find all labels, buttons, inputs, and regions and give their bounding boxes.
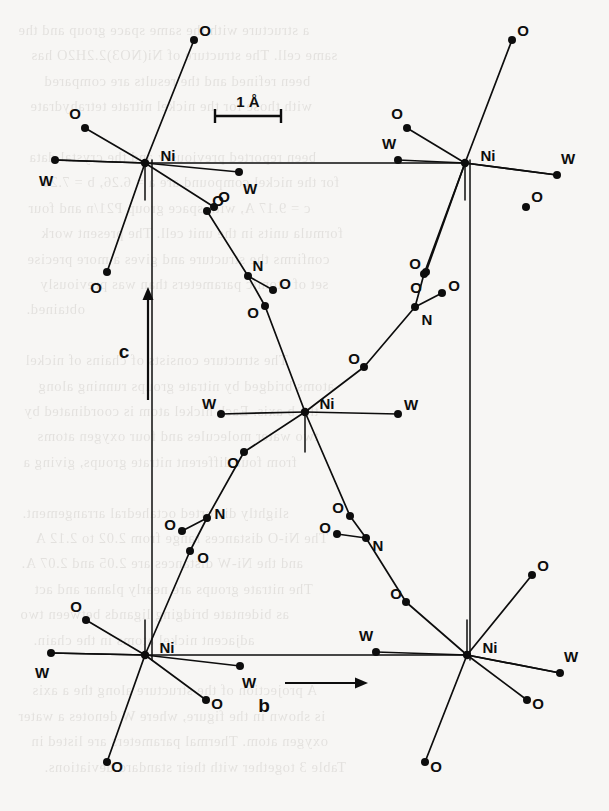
bond-line <box>107 163 145 272</box>
atom-label-ni: Ni <box>160 640 175 655</box>
atom-marker-n <box>362 534 370 542</box>
atom-marker-o <box>240 448 248 456</box>
atom-label-ni: Ni <box>320 396 335 411</box>
bond-line <box>51 653 145 655</box>
atom-label-w: W <box>564 649 578 664</box>
unit-cell-edges <box>51 160 560 673</box>
atom-label-o: O <box>332 500 344 515</box>
atom-marker-o <box>81 124 89 132</box>
bond-line <box>467 575 532 655</box>
bond-line <box>221 412 305 414</box>
atom-label-w: W <box>404 397 418 412</box>
atom-label-w: W <box>561 151 575 166</box>
bond-line <box>107 655 145 762</box>
bond-line <box>145 40 194 163</box>
atom-marker-w <box>553 171 561 179</box>
bond-line <box>265 306 305 412</box>
bond-line <box>55 160 145 163</box>
bond-line <box>424 163 465 274</box>
atom-marker-ni <box>141 651 149 659</box>
atom-marker-w <box>51 156 59 164</box>
atom-marker-w <box>556 669 564 677</box>
bond-line <box>406 602 467 655</box>
atom-label-w: W <box>359 628 373 643</box>
atom-label-o: O <box>90 280 102 295</box>
bond-line <box>145 655 240 666</box>
structure-drawing <box>0 0 609 811</box>
atom-marker-ni <box>463 651 471 659</box>
atom-label-o: O <box>247 305 259 320</box>
atom-label-o: O <box>410 280 422 295</box>
atom-marker-o <box>103 268 111 276</box>
atom-marker-o <box>103 758 111 766</box>
bond-line <box>207 211 248 276</box>
atom-marker-n <box>411 303 419 311</box>
axis-arrows <box>143 287 369 689</box>
atom-marker-ni <box>461 159 469 167</box>
atom-label-n: N <box>373 538 384 553</box>
atom-marker-o <box>508 36 516 44</box>
bond-line <box>467 655 527 700</box>
atom-marker-o <box>186 547 194 555</box>
atom-label-o: O <box>517 23 529 38</box>
bond-line <box>145 163 214 207</box>
atom-label-o: O <box>531 189 543 204</box>
atom-marker-o <box>333 530 341 538</box>
bond-line <box>145 163 239 172</box>
atom-marker-o <box>202 696 210 704</box>
atom-label-o: O <box>227 455 239 470</box>
atom-label-w: W <box>35 665 49 680</box>
atom-label-ni: Ni <box>481 148 496 163</box>
atom-marker-o <box>421 758 429 766</box>
atom-marker-w <box>47 649 55 657</box>
atom-label-n: N <box>215 506 226 521</box>
atom-marker-w <box>394 410 402 418</box>
bond-line <box>86 620 145 655</box>
crystal-structure-figure: a structure with the same space group an… <box>0 0 609 811</box>
scale-bar <box>215 109 281 123</box>
atom-label-n: N <box>422 312 433 327</box>
atom-marker-w <box>236 662 244 670</box>
atom-label-o: O <box>199 23 211 38</box>
atom-marker-o <box>82 616 90 624</box>
atom-label-o: O <box>111 759 123 774</box>
bond-line <box>407 128 465 163</box>
bond-line <box>305 367 364 412</box>
atom-marker-o <box>203 207 211 215</box>
axis-label-b: b <box>258 695 270 717</box>
atom-marker-w <box>394 156 402 164</box>
atom-markers <box>47 36 564 766</box>
atom-marker-o <box>360 363 368 371</box>
bond-line <box>85 128 145 163</box>
atom-label-o: O <box>211 696 223 711</box>
atom-label-o: O <box>390 586 402 601</box>
atom-label-o: O <box>537 558 549 573</box>
atom-label-w: W <box>243 181 257 196</box>
atom-label-o: O <box>348 351 360 366</box>
atom-label-n: N <box>253 258 264 273</box>
atom-marker-o <box>438 289 446 297</box>
atom-label-o: O <box>164 517 176 532</box>
atom-label-o: O <box>319 520 331 535</box>
atom-label-w: W <box>382 136 396 151</box>
axis-label-c: c <box>119 341 130 363</box>
bond-line <box>305 412 398 414</box>
axis-arrow-b-head <box>355 678 368 689</box>
bond-line <box>244 412 305 452</box>
atom-marker-o <box>420 270 428 278</box>
bond-line <box>465 40 512 163</box>
atom-label-w: W <box>202 396 216 411</box>
atom-label-o: O <box>409 256 421 271</box>
atom-label-o: O <box>279 276 291 291</box>
atom-label-o: O <box>391 106 403 121</box>
bond-line <box>467 655 560 673</box>
atom-label-o: O <box>532 696 544 711</box>
atom-label-o: O <box>212 193 224 208</box>
atom-label-ni: Ni <box>161 148 176 163</box>
atom-marker-o <box>528 571 536 579</box>
bond-line <box>364 307 415 367</box>
atom-label-o: O <box>448 278 460 293</box>
bond-line <box>337 534 366 538</box>
bond-line <box>350 516 366 538</box>
bond-line <box>465 163 557 175</box>
